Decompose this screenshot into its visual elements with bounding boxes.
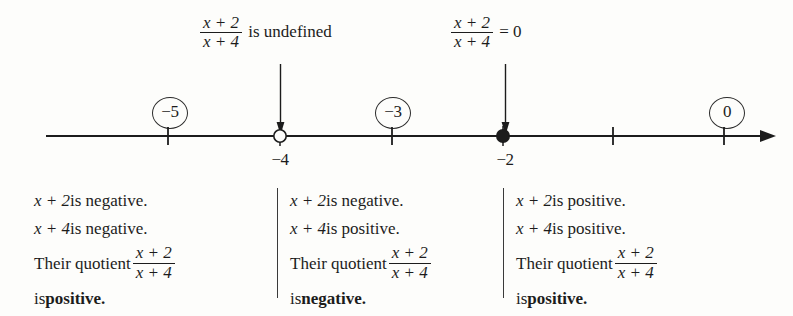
sign-analysis-number-line-figure: x + 2 x + 4 is undefined x + 2 x + 4 = 0…	[0, 0, 793, 316]
callout-undefined-text: is undefined	[244, 22, 332, 41]
sign-statement: is negative.	[326, 192, 403, 209]
interval-line-conclusion: is negative.	[290, 284, 496, 312]
interval-block-right: x + 2 is positive. x + 4 is positive. Th…	[516, 186, 748, 312]
fraction-denominator: x + 4	[451, 33, 493, 51]
fraction-numerator: x + 2	[451, 14, 493, 33]
conclusion-prefix: is	[34, 290, 45, 307]
interval-line-conclusion: is positive.	[34, 284, 266, 312]
conclusion-sign: positive.	[527, 290, 587, 307]
interval-line-numerator-sign: x + 2 is negative.	[34, 186, 266, 214]
expression-x-plus-4: x + 4	[290, 220, 326, 237]
fraction-x2-over-x4: x + 2 x + 4	[451, 14, 493, 52]
sign-statement: is negative.	[70, 192, 147, 209]
expression-x-plus-2: x + 2	[34, 192, 70, 209]
filled-circle-marker-neg2	[497, 126, 509, 146]
open-circle-marker-neg4	[274, 126, 286, 146]
sign-statement: is negative.	[70, 220, 147, 237]
fraction-denominator: x + 4	[389, 264, 431, 282]
sign-statement: is positive.	[552, 220, 626, 237]
interval-divider-at-neg2	[503, 188, 504, 298]
axis-label-neg2: −2	[485, 150, 525, 170]
quotient-label: Their quotient	[290, 255, 387, 272]
interval-line-quotient: Their quotient x + 2 x + 4	[516, 242, 748, 284]
interval-line-quotient: Their quotient x + 2 x + 4	[290, 242, 496, 284]
callout-undefined: x + 2 x + 4 is undefined	[198, 14, 332, 52]
quotient-label: Their quotient	[516, 255, 613, 272]
axis-label-neg4: −4	[260, 150, 300, 170]
expression-x-plus-2: x + 2	[290, 192, 326, 209]
interval-line-denominator-sign: x + 4 is positive.	[516, 214, 748, 242]
interval-block-left: x + 2 is negative. x + 4 is negative. Th…	[34, 186, 266, 312]
expression-x-plus-2: x + 2	[516, 192, 552, 209]
number-line-axis	[40, 118, 780, 154]
callout-zero: x + 2 x + 4 = 0	[449, 14, 522, 52]
interval-line-numerator-sign: x + 2 is negative.	[290, 186, 496, 214]
callout-zero-text: = 0	[495, 22, 522, 41]
fraction-numerator: x + 2	[389, 244, 431, 263]
fraction-denominator: x + 4	[133, 264, 175, 282]
interval-divider-at-neg4	[277, 188, 278, 298]
fraction-x2-over-x4: x + 2 x + 4	[133, 244, 175, 282]
interval-block-middle: x + 2 is negative. x + 4 is positive. Th…	[290, 186, 496, 312]
conclusion-prefix: is	[290, 290, 301, 307]
interval-line-numerator-sign: x + 2 is positive.	[516, 186, 748, 214]
fraction-denominator: x + 4	[615, 264, 657, 282]
interval-line-denominator-sign: x + 4 is positive.	[290, 214, 496, 242]
fraction-x2-over-x4: x + 2 x + 4	[389, 244, 431, 282]
interval-line-denominator-sign: x + 4 is negative.	[34, 214, 266, 242]
fraction-numerator: x + 2	[200, 14, 242, 33]
fraction-denominator: x + 4	[200, 33, 242, 51]
conclusion-sign: negative.	[301, 290, 366, 307]
conclusion-sign: positive.	[45, 290, 105, 307]
conclusion-prefix: is	[516, 290, 527, 307]
fraction-numerator: x + 2	[133, 244, 175, 263]
quotient-label: Their quotient	[34, 255, 131, 272]
fraction-x2-over-x4: x + 2 x + 4	[200, 14, 242, 52]
sign-statement: is positive.	[552, 192, 626, 209]
expression-x-plus-4: x + 4	[516, 220, 552, 237]
sign-statement: is positive.	[326, 220, 400, 237]
expression-x-plus-4: x + 4	[34, 220, 70, 237]
fraction-numerator: x + 2	[615, 244, 657, 263]
fraction-x2-over-x4: x + 2 x + 4	[615, 244, 657, 282]
axis-arrowhead-right	[760, 130, 776, 142]
interval-line-conclusion: is positive.	[516, 284, 748, 312]
interval-line-quotient: Their quotient x + 2 x + 4	[34, 242, 266, 284]
